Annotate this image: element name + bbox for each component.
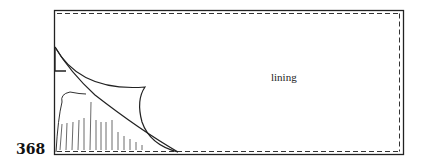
diagonal-fold-line [55,47,178,152]
hatched-cut-area [60,102,142,150]
inner-dashed-seam [57,14,400,152]
outer-rectangle [55,11,404,155]
figure-number: 368 [16,142,45,156]
lining-label: lining [271,71,297,83]
folded-corner-curve [55,47,178,152]
lining-diagram [0,0,425,161]
